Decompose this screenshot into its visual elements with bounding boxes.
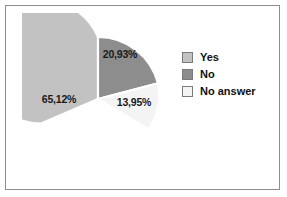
legend-swatch-yes-icon [182,52,193,63]
pie-chart-svg: 20,93% 13,95% 65,12% [22,13,174,185]
legend-label-yes: Yes [200,52,219,63]
screenshot-root: 20,93% 13,95% 65,12% Yes No No answer [0,0,287,197]
legend-swatch-no-icon [182,69,193,80]
legend-item-no-answer[interactable]: No answer [182,84,277,99]
legend-item-yes[interactable]: Yes [182,50,277,65]
chart-legend: Yes No No answer [182,50,277,101]
legend-label-no-answer: No answer [200,86,256,97]
legend-label-no: No [200,69,215,80]
legend-item-no[interactable]: No [182,67,277,82]
pie-chart: 20,93% 13,95% 65,12% [22,13,174,185]
pie-label-no-answer: 13,95% [117,96,152,108]
pie-label-yes: 65,12% [42,93,77,105]
pie-slice-yes[interactable] [22,13,98,124]
pie-label-no: 20,93% [103,48,138,60]
chart-plot-area: 20,93% 13,95% 65,12% Yes No No answer [0,0,287,197]
legend-swatch-no-answer-icon [182,86,193,97]
